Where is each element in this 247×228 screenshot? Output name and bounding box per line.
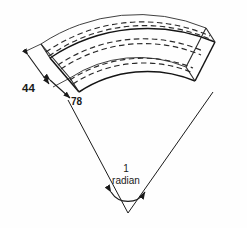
dashed-arc-2b <box>61 44 201 69</box>
dim78-leader-line <box>50 80 70 98</box>
front-inner-arc <box>79 71 195 92</box>
bar-depth-edges <box>41 28 215 92</box>
dim44-extension-top <box>24 44 41 52</box>
sector-radius-lines <box>68 92 213 213</box>
dashed-arc-1b <box>49 26 212 56</box>
angle-label-value: 1 <box>123 163 129 174</box>
dimension-label-44: 44 <box>22 82 35 94</box>
left-radius-line <box>68 100 128 213</box>
right-radius-line <box>128 92 213 213</box>
dashed-arc-3a <box>70 58 193 80</box>
dim44-dimension-line <box>28 55 49 84</box>
dimension-label-78: 78 <box>71 96 83 107</box>
technical-drawing-figure: 44 78 1 radian <box>0 0 247 228</box>
front-outer-arc <box>50 29 215 58</box>
angle-label-unit: radian <box>112 175 140 186</box>
hidden-internal-arcs <box>46 22 212 84</box>
dimension-78-group: 78 <box>50 80 83 107</box>
right-end-face-edge <box>195 42 215 81</box>
left-bottom-depth-edge <box>70 78 79 92</box>
sector-bar-drawing-canvas: 44 78 1 radian <box>0 0 247 228</box>
